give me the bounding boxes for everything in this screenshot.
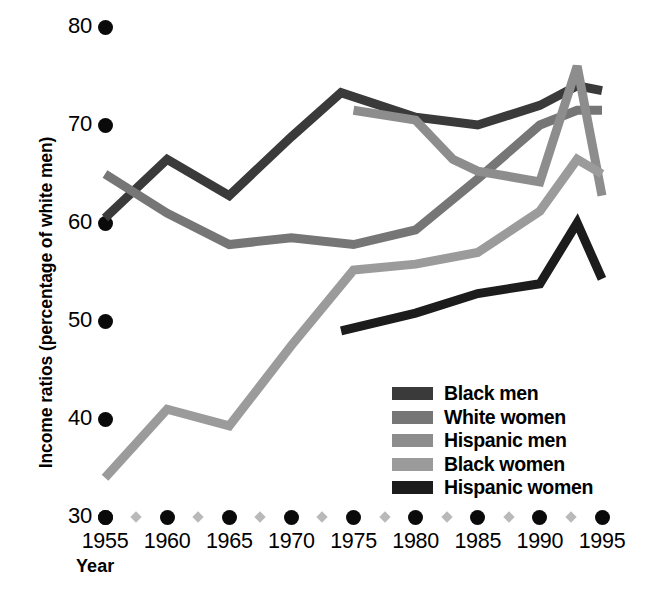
legend-swatch-icon — [392, 458, 433, 471]
legend-swatch-icon — [392, 411, 433, 424]
legend-swatch-icon — [392, 434, 433, 447]
series-line — [105, 86, 602, 218]
legend-swatch-icon — [392, 481, 433, 494]
legend-item[interactable]: Black women — [392, 453, 593, 477]
legend-item[interactable]: Hispanic men — [392, 429, 593, 453]
plot-area — [0, 0, 652, 612]
legend-item[interactable]: Hispanic women — [392, 476, 593, 500]
x-axis-title: Year — [76, 556, 114, 577]
legend-item-label: White women — [444, 408, 566, 428]
chart-legend: Black menWhite womenHispanic menBlack wo… — [392, 382, 593, 500]
line-chart: Income ratios (percentage of white men) … — [0, 0, 652, 612]
legend-item-label: Hispanic men — [444, 431, 567, 451]
legend-item-label: Black women — [444, 455, 565, 475]
legend-item[interactable]: Black men — [392, 382, 593, 406]
legend-item[interactable]: White women — [392, 406, 593, 430]
legend-item-label: Black men — [444, 384, 538, 404]
legend-swatch-icon — [392, 387, 433, 400]
legend-item-label: Hispanic women — [444, 478, 593, 498]
